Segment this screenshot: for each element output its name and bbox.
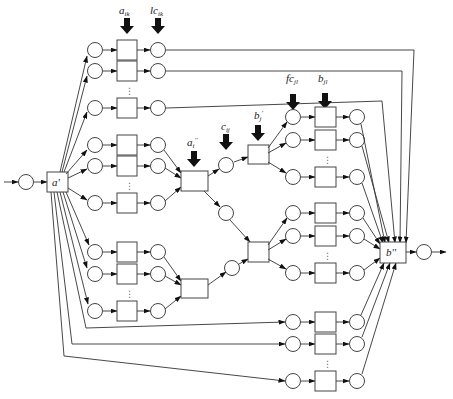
ellipsis: ⋮	[125, 289, 134, 299]
arc	[204, 191, 220, 207]
row	[286, 167, 365, 187]
sink-place	[417, 245, 432, 260]
arc	[268, 162, 286, 173]
input-arrow-icon	[286, 94, 300, 110]
row	[88, 301, 166, 321]
label-b-double: b''	[386, 246, 397, 258]
svg-text:fcjl: fcjl	[286, 72, 298, 86]
row	[88, 193, 166, 213]
label-c-ij: cij	[219, 120, 233, 150]
row	[88, 135, 166, 155]
svg-text:lcik: lcik	[150, 4, 164, 18]
transition-lower-merge	[181, 279, 208, 298]
ellipsis: ⋮	[125, 86, 134, 96]
arc	[239, 259, 248, 264]
input-arrow-icon	[120, 18, 134, 34]
place-c-ij	[219, 158, 234, 173]
svg-text:ai'': ai''	[187, 136, 198, 150]
source-place	[19, 175, 34, 190]
row	[286, 263, 365, 283]
svg-text:bjl: bjl	[318, 72, 327, 86]
svg-text:aik: aik	[119, 4, 130, 18]
label-fc-jl: fcjl	[286, 72, 300, 110]
right-rows: ⋮ ⋮ ⋮	[286, 107, 365, 391]
ellipsis: ⋮	[323, 155, 332, 165]
input-arrow-icon	[219, 134, 233, 150]
place-lower-mid	[225, 261, 240, 276]
arc	[230, 220, 250, 242]
row	[88, 242, 166, 262]
row	[88, 264, 166, 284]
ellipsis: ⋮	[125, 181, 134, 191]
left-rows: ⋮ ⋮ ⋮	[88, 40, 166, 321]
label-a-ik: aik	[119, 4, 134, 34]
arc	[208, 169, 219, 176]
row	[286, 334, 365, 354]
arc	[268, 259, 286, 269]
transition-lower-split	[248, 242, 269, 262]
input-arrow-icon	[151, 18, 165, 34]
row	[88, 61, 166, 81]
arc	[234, 157, 248, 162]
row	[286, 312, 365, 332]
label-a-i-double: ai''	[187, 136, 201, 167]
label-b-j-prime: bj'	[251, 109, 265, 141]
ellipsis: ⋮	[323, 359, 332, 369]
petri-net-diagram: a' ⋮	[0, 0, 453, 399]
row	[286, 107, 365, 127]
row	[286, 203, 365, 223]
row	[88, 40, 166, 60]
row	[88, 156, 166, 176]
arc	[165, 296, 181, 309]
input-arrow-icon	[251, 125, 265, 141]
row	[286, 371, 365, 391]
svg-text:cij: cij	[221, 120, 230, 134]
arc	[165, 187, 181, 201]
row	[88, 98, 166, 118]
svg-text:bj': bj'	[254, 109, 263, 123]
place-middle	[219, 206, 234, 221]
diagram-canvas: a' ⋮	[0, 0, 453, 399]
row	[286, 130, 365, 150]
ellipsis: ⋮	[323, 251, 332, 261]
arc	[208, 272, 226, 285]
label-lc-ik: lcik	[150, 4, 165, 34]
input-arrow-icon	[187, 151, 201, 167]
row	[286, 226, 365, 246]
label-a-prime: a'	[52, 176, 61, 188]
transition-a-i-double	[181, 171, 208, 191]
arc	[164, 257, 181, 281]
arc	[164, 150, 181, 173]
arc	[268, 218, 287, 245]
fanout-arcs	[51, 56, 285, 381]
transition-b-j-prime	[248, 145, 269, 164]
